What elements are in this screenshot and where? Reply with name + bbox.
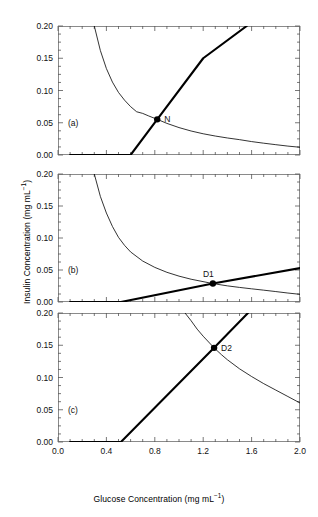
plot-area: [58, 174, 300, 302]
intersection-label: N: [164, 114, 170, 124]
series-glucose-removal-curve: [94, 174, 300, 294]
y-tick-label: 0.00: [36, 150, 53, 160]
x-tick-label: 1.6: [246, 446, 258, 456]
intersection-marker: [210, 280, 216, 286]
y-tick-label: 0.20: [36, 169, 53, 179]
panel-c: D2(c)0.000.050.100.150.200.00.40.81.21.6…: [58, 313, 300, 442]
plot-area: [58, 313, 300, 442]
series-insulin-secretion-line: [70, 268, 300, 302]
y-tick-label: 0.20: [36, 21, 53, 31]
x-tick-label: 0.0: [52, 446, 64, 456]
y-tick-label: 0.10: [36, 233, 53, 243]
x-tick-label: 1.2: [197, 446, 209, 456]
intersection-label: D1: [203, 269, 214, 279]
y-tick-label: 0.05: [36, 405, 53, 415]
series-insulin-secretion-line: [70, 313, 248, 442]
y-tick-label: 0.00: [36, 437, 53, 447]
y-tick-label: 0.15: [36, 201, 53, 211]
y-tick-label: 0.05: [36, 118, 53, 128]
y-tick-label: 0.15: [36, 53, 53, 63]
figure-root: Insulin Concentration (mg mL−1) Glucose …: [0, 0, 318, 517]
series-glucose-removal-curve: [185, 313, 300, 403]
plot-area: [58, 26, 300, 155]
x-tick-label: 0.8: [149, 446, 161, 456]
intersection-label: D2: [221, 343, 232, 353]
intersection-marker: [154, 116, 160, 122]
y-tick-label: 0.10: [36, 86, 53, 96]
y-tick-label: 0.20: [36, 308, 53, 318]
y-tick-label: 0.05: [36, 265, 53, 275]
series-insulin-secretion-line: [70, 26, 247, 155]
y-tick-label: 0.15: [36, 340, 53, 350]
panel-tag: (c): [68, 405, 78, 415]
panel-tag: (b): [68, 265, 78, 275]
intersection-marker: [211, 345, 217, 351]
panel-tag: (a): [68, 118, 78, 128]
x-tick-label: 2.0: [294, 446, 306, 456]
series-glucose-removal-curve: [94, 26, 300, 147]
panel-b: D1(b)0.000.050.100.150.20: [58, 174, 300, 302]
x-axis-title: Glucose Concentration (mg mL−1): [0, 492, 318, 504]
y-tick-label: 0.00: [36, 297, 53, 307]
panel-a: N(a)0.000.050.100.150.20: [58, 26, 300, 155]
y-tick-label: 0.10: [36, 373, 53, 383]
y-axis-title: Insulin Concentration (mg mL−1): [20, 152, 32, 332]
x-tick-label: 0.4: [100, 446, 112, 456]
